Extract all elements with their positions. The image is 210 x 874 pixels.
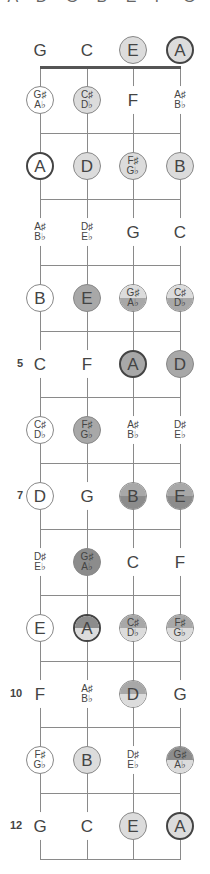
fret-line-9 bbox=[40, 661, 181, 662]
note-f-sharp-fret-2: F♯G♭ bbox=[119, 152, 147, 180]
note-f-sharp-fret-6: F♯G♭ bbox=[73, 416, 101, 444]
note-b-fret-4: B bbox=[26, 284, 54, 312]
note-label: E bbox=[127, 818, 138, 835]
note-f-fret-5: F bbox=[73, 350, 101, 378]
note-label: C bbox=[34, 356, 46, 373]
fret-line-5 bbox=[40, 397, 181, 398]
note-c-sharp-fret-6: C♯D♭ bbox=[26, 416, 54, 444]
note-label: A bbox=[34, 158, 45, 175]
note-f-fret-8: F bbox=[166, 548, 194, 576]
note-e-fret-4: E bbox=[73, 284, 101, 312]
note-flat-label: E♭ bbox=[81, 232, 93, 242]
note-label: D bbox=[34, 488, 46, 505]
note-g-fret-7: G bbox=[73, 482, 101, 510]
note-g-fret-10: G bbox=[166, 680, 194, 708]
fret-number: 12 bbox=[10, 819, 22, 831]
note-label: B bbox=[127, 488, 138, 505]
note-flat-label: B♭ bbox=[34, 232, 46, 242]
note-d-sharp-fret-3: D♯E♭ bbox=[73, 218, 101, 246]
note-label: F bbox=[82, 356, 92, 373]
note-flat-label: A♭ bbox=[34, 100, 46, 110]
note-d-fret-7: D bbox=[26, 482, 54, 510]
note-label: C bbox=[81, 818, 93, 835]
note-a-fret-9: A bbox=[73, 614, 101, 642]
note-c-sharp-fret-4: C♯D♭ bbox=[166, 284, 194, 312]
note-flat-label: E♭ bbox=[34, 562, 46, 572]
note-a-fret-0: A bbox=[166, 36, 194, 64]
note-label: E bbox=[34, 620, 45, 637]
note-label: A bbox=[81, 620, 92, 637]
note-label: F bbox=[128, 92, 138, 109]
note-label: G bbox=[80, 488, 93, 505]
note-a-sharp-fret-6: A♯B♭ bbox=[119, 416, 147, 444]
note-a-sharp-fret-3: A♯B♭ bbox=[26, 218, 54, 246]
note-label: C bbox=[127, 554, 139, 571]
fret-line-7 bbox=[40, 529, 181, 530]
note-label: C bbox=[174, 224, 186, 241]
note-flat-label: B♭ bbox=[174, 100, 186, 110]
note-f-sharp-fret-11: F♯G♭ bbox=[26, 746, 54, 774]
note-f-fret-1: F bbox=[119, 86, 147, 114]
ukulele-fretboard-diagram: 571012GCEAG♯A♭C♯D♭FA♯B♭ADF♯G♭BA♯B♭D♯E♭GC… bbox=[0, 0, 210, 874]
note-flat-label: D♭ bbox=[81, 100, 93, 110]
note-label: G bbox=[126, 224, 139, 241]
note-c-fret-3: C bbox=[166, 218, 194, 246]
note-g-sharp-fret-8: G♯A♭ bbox=[73, 548, 101, 576]
note-label: E bbox=[127, 42, 138, 59]
note-a-fret-5: A bbox=[119, 350, 147, 378]
note-label: G bbox=[33, 818, 46, 835]
fret-line-3 bbox=[40, 265, 181, 266]
note-a-fret-2: A bbox=[26, 152, 54, 180]
note-label: C bbox=[81, 42, 93, 59]
fret-line-10 bbox=[40, 727, 181, 728]
fret-number: 5 bbox=[17, 357, 23, 369]
fret-line-1 bbox=[40, 133, 181, 134]
note-d-fret-10: D bbox=[119, 680, 147, 708]
note-flat-label: E♭ bbox=[127, 760, 139, 770]
note-d-fret-5: D bbox=[166, 350, 194, 378]
note-flat-label: E♭ bbox=[174, 430, 186, 440]
note-e-fret-12: E bbox=[119, 812, 147, 840]
note-c-sharp-fret-9: C♯D♭ bbox=[119, 614, 147, 642]
note-flat-label: G♭ bbox=[174, 628, 187, 638]
note-g-fret-12: G bbox=[26, 812, 54, 840]
note-flat-label: G♭ bbox=[127, 166, 140, 176]
note-flat-label: B♭ bbox=[127, 430, 139, 440]
note-label: B bbox=[174, 158, 185, 175]
note-e-fret-9: E bbox=[26, 614, 54, 642]
note-label: B bbox=[34, 290, 45, 307]
note-label: B bbox=[81, 752, 92, 769]
fret-line-6 bbox=[40, 463, 181, 464]
note-d-sharp-fret-11: D♯E♭ bbox=[119, 746, 147, 774]
note-label: D bbox=[81, 158, 93, 175]
note-label: D bbox=[127, 686, 139, 703]
note-g-fret-0: G bbox=[26, 36, 54, 64]
note-b-fret-11: B bbox=[73, 746, 101, 774]
note-flat-label: D♭ bbox=[34, 430, 46, 440]
note-label: F bbox=[175, 554, 185, 571]
note-c-fret-8: C bbox=[119, 548, 147, 576]
note-g-sharp-fret-11: G♯A♭ bbox=[166, 746, 194, 774]
note-flat-label: D♭ bbox=[127, 628, 139, 638]
note-g-sharp-fret-4: G♯A♭ bbox=[119, 284, 147, 312]
note-e-fret-0: E bbox=[119, 36, 147, 64]
note-flat-label: A♭ bbox=[81, 562, 93, 572]
note-f-sharp-fret-9: F♯G♭ bbox=[166, 614, 194, 642]
note-label: D bbox=[174, 356, 186, 373]
note-a-fret-12: A bbox=[166, 812, 194, 840]
note-label: F bbox=[35, 686, 45, 703]
note-g-fret-3: G bbox=[119, 218, 147, 246]
note-e-fret-7: E bbox=[166, 482, 194, 510]
note-flat-label: A♭ bbox=[127, 298, 139, 308]
note-label: A bbox=[127, 356, 138, 373]
note-c-sharp-fret-1: C♯D♭ bbox=[73, 86, 101, 114]
fret-number: 10 bbox=[10, 687, 22, 699]
note-flat-label: G♭ bbox=[34, 760, 47, 770]
note-label: E bbox=[81, 290, 92, 307]
note-b-fret-7: B bbox=[119, 482, 147, 510]
nut bbox=[40, 66, 181, 69]
note-d-sharp-fret-6: D♯E♭ bbox=[166, 416, 194, 444]
note-label: G bbox=[33, 42, 46, 59]
note-d-fret-2: D bbox=[73, 152, 101, 180]
note-c-fret-5: C bbox=[26, 350, 54, 378]
